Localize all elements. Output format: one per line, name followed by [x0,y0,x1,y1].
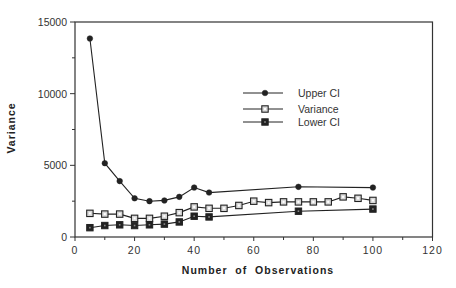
y-tick-label: 0 [61,231,67,243]
data-point [296,184,302,190]
filled-diamond-icon [262,90,268,96]
data-point [147,198,153,204]
data-point [206,190,212,196]
x-tick-label: 100 [363,244,384,256]
y-tick-label: 15000 [38,16,67,28]
data-point [132,196,138,202]
data-point [295,208,301,214]
data-point [102,160,108,166]
data-point [87,210,93,216]
series-lower-ci [87,206,376,231]
x-tick-label: 60 [247,244,261,256]
x-tick-label: 20 [128,244,142,256]
data-point [370,185,376,191]
data-point [295,199,301,205]
data-point [117,178,123,184]
data-point [131,222,137,228]
series-variance [87,194,376,222]
data-point [146,222,152,228]
legend-label-lower-ci: Lower CI [298,116,340,128]
data-point [325,199,331,205]
data-point [206,214,212,220]
data-point [251,198,257,204]
data-point [161,221,167,227]
x-tick-label: 80 [306,244,320,256]
data-point [310,199,316,205]
data-point [191,185,197,191]
legend-label-variance: Variance [298,103,339,115]
data-point [265,199,271,205]
data-point [102,222,108,228]
data-point [87,36,93,42]
data-point [162,198,168,204]
data-point [280,199,286,205]
data-point [116,222,122,228]
data-point [340,194,346,200]
data-point [206,205,212,211]
legend: Upper CI Variance Lower CI [243,87,340,128]
y-tick-label: 5000 [44,159,68,171]
data-point [161,213,167,219]
data-point [116,211,122,217]
y-axis-ticks: 050001000015000 [38,16,75,243]
data-point [176,219,182,225]
data-point [355,195,361,201]
legend-item-variance: Variance [243,103,339,115]
legend-item-upper-ci: Upper CI [243,87,340,99]
x-tick-label: 120 [422,244,443,256]
x-tick-label: 0 [72,244,79,256]
data-point [87,224,93,230]
x-tick-label: 40 [187,244,201,256]
data-point [236,202,242,208]
data-point [146,215,152,221]
data-point [176,194,182,200]
y-axis-title: Variance [5,102,17,153]
data-point [176,209,182,215]
series-layer [87,36,376,231]
y-tick-label: 10000 [38,88,67,100]
x-axis-ticks: 020406080100120 [72,237,443,256]
data-point [370,206,376,212]
legend-label-upper-ci: Upper CI [298,87,340,99]
data-point [191,204,197,210]
legend-item-lower-ci: Lower CI [243,116,340,128]
data-point [131,215,137,221]
data-point [191,213,197,219]
open-square-icon [262,106,268,112]
data-point [221,205,227,211]
data-point [370,197,376,203]
x-axis-title: Number of Observations [182,264,334,276]
filled-square-icon [262,119,268,125]
line-chart: 050001000015000 020406080100120 Upper CI… [0,0,456,288]
data-point [102,211,108,217]
